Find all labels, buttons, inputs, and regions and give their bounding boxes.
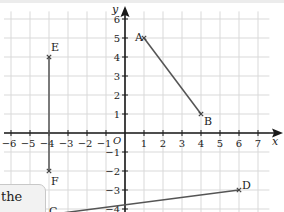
- x-tick-label: −4: [40, 138, 55, 149]
- y-tick-label: 6: [114, 14, 120, 25]
- x-tick-label: −2: [78, 138, 93, 149]
- x-tick-label: −3: [59, 138, 74, 149]
- y-tick-label: −1: [105, 147, 120, 158]
- coordinate-grid-diagram: xyO−6−5−4−3−2−11234567−4−3−2−1123456 ABC…: [0, 0, 284, 212]
- x-tick-label: −5: [21, 138, 36, 149]
- x-tick-label: 6: [236, 138, 242, 149]
- point-label-E: E: [51, 41, 59, 54]
- x-tick-label: 7: [255, 138, 261, 149]
- y-tick-label: 3: [114, 71, 120, 82]
- x-axis-label: x: [272, 135, 279, 148]
- callout-text: the: [1, 189, 22, 204]
- partial-callout-box: the: [0, 184, 46, 212]
- x-tick-label: 2: [160, 138, 166, 149]
- x-tick-label: −6: [2, 138, 17, 149]
- y-tick-label: 5: [114, 33, 120, 44]
- point-label-C: C: [49, 205, 57, 212]
- x-tick-label: 3: [179, 138, 185, 149]
- y-tick-label: 1: [114, 109, 120, 120]
- x-tick-label: 1: [141, 138, 147, 149]
- point-label-A: A: [134, 31, 144, 44]
- point-label-F: F: [51, 175, 59, 188]
- x-tick-label: 5: [217, 138, 223, 149]
- y-tick-label: 4: [114, 52, 120, 63]
- y-tick-label: −3: [105, 185, 120, 196]
- x-tick-label: 4: [198, 138, 204, 149]
- origin-label: O: [113, 135, 121, 146]
- y-tick-label: 2: [114, 90, 120, 101]
- y-tick-label: −2: [105, 166, 120, 177]
- point-label-D: D: [242, 179, 251, 192]
- point-label-B: B: [204, 115, 212, 128]
